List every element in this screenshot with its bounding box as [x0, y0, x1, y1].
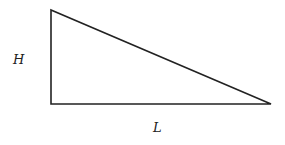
triangle-outline	[51, 10, 271, 104]
length-label: L	[153, 120, 162, 135]
height-label: H	[13, 52, 24, 67]
right-triangle	[0, 0, 285, 145]
